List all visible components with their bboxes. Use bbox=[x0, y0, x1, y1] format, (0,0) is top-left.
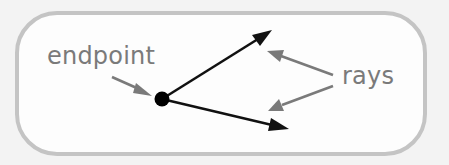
ray-upper bbox=[162, 30, 272, 99]
arrowhead-icon bbox=[267, 50, 284, 62]
endpoint-dot bbox=[155, 92, 170, 107]
endpoint-pointer-arrow bbox=[112, 77, 152, 96]
arrowhead-icon bbox=[133, 83, 152, 96]
arrowhead-icon bbox=[268, 118, 289, 131]
ray-lower bbox=[162, 99, 289, 131]
arrowhead-icon bbox=[252, 30, 272, 46]
endpoint-label: endpoint bbox=[47, 44, 155, 68]
rays-pointer-upper-arrow bbox=[267, 50, 333, 75]
arrowhead-icon bbox=[268, 99, 284, 111]
rays-pointer-lower-arrow bbox=[268, 86, 333, 111]
rays-label: rays bbox=[342, 64, 394, 88]
